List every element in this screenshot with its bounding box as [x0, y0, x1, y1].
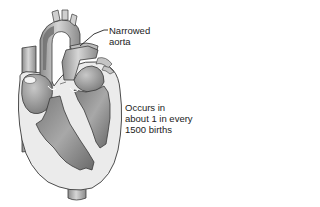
- incidence-label-line2: about 1 in every: [125, 113, 193, 124]
- incidence-label-line1: Occurs in: [125, 102, 193, 113]
- narrowed-aorta-label-line1: Narrowed: [109, 25, 150, 36]
- incidence-label-line3: 1500 births: [125, 124, 193, 135]
- narrowed-aorta-label-line2: aorta: [109, 36, 150, 47]
- narrowed-aorta-label: Narrowed aorta: [109, 25, 150, 47]
- incidence-label: Occurs in about 1 in every 1500 births: [125, 102, 193, 135]
